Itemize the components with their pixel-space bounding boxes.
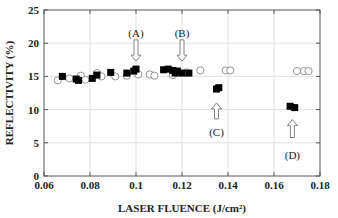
open-circle-marker: [305, 67, 312, 74]
filled-square-marker: [179, 70, 186, 77]
data-points: [54, 66, 312, 112]
x-tick-label: 0.12: [172, 179, 192, 191]
annotation-label: (C): [209, 126, 224, 139]
annotation-label: (A): [128, 27, 144, 40]
open-circle-marker: [293, 67, 300, 74]
annotation-label: (B): [175, 27, 190, 40]
reflectivity-chart: 0.060.080.10.120.140.160.18 0510152025 (…: [0, 0, 338, 218]
arrow-up-icon: [287, 120, 297, 138]
annotation-b: (B): [175, 27, 190, 62]
annotation-d: (D): [285, 120, 301, 162]
x-tick-label: 0.16: [264, 179, 284, 191]
y-tick-label: 25: [28, 4, 40, 16]
arrow-up-icon: [212, 103, 222, 119]
filled-square-marker: [291, 104, 298, 111]
open-circle-marker: [227, 67, 234, 74]
filled-square-marker: [133, 66, 140, 73]
open-circle-marker: [151, 72, 158, 79]
filled-square-marker: [215, 84, 222, 91]
filled-square-marker: [93, 72, 100, 79]
y-tick-label: 20: [28, 37, 40, 49]
open-circle-marker: [66, 75, 73, 82]
y-tick-label: 10: [28, 104, 40, 116]
y-tick-label: 5: [34, 137, 40, 149]
annotations: (A)(B)(C)(D): [128, 27, 300, 162]
filled-square-marker: [107, 69, 114, 76]
y-tick-label: 15: [28, 70, 40, 82]
filled-square-marker: [59, 73, 66, 80]
x-axis-title: LASER FLUENCE (J/cm²): [118, 202, 246, 215]
open-circle-marker: [197, 67, 204, 74]
x-tick-label: 0.14: [218, 179, 238, 191]
filled-square-marker: [123, 70, 130, 77]
annotation-c: (C): [209, 103, 224, 139]
annotation-label: (D): [285, 149, 301, 162]
x-tick-label: 0.18: [310, 179, 330, 191]
filled-square-marker: [185, 70, 192, 77]
x-tick-label: 0.1: [129, 179, 143, 191]
x-tick-label: 0.08: [80, 179, 100, 191]
open-circle-marker: [82, 76, 89, 83]
y-tick-label: 0: [34, 170, 40, 182]
filled-square-marker: [75, 77, 82, 84]
chart-svg: 0.060.080.10.120.140.160.18 0510152025 (…: [0, 0, 338, 218]
annotation-a: (A): [128, 27, 144, 62]
y-axis-title: REFLECTIVITY (%): [3, 40, 16, 145]
